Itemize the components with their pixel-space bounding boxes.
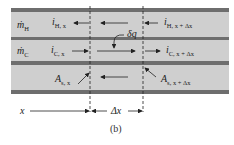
label-i-H-x: iH, x	[52, 17, 66, 31]
label-m-hot: ṁH	[17, 20, 29, 34]
label-A-s-xdx: As, x + Δx	[161, 74, 191, 88]
leader-A-s-xdx	[145, 68, 156, 77]
label-i-C-xdx: iC, x + Δx	[166, 45, 194, 59]
label-i-H-xdx: iH, x + Δx	[164, 17, 192, 31]
label-dx: Δx	[111, 106, 121, 116]
label-A-s-x: As, x	[55, 74, 70, 88]
leader-A-s-x	[78, 73, 89, 84]
label-x: x	[20, 106, 24, 116]
figure-caption: (b)	[110, 123, 122, 134]
label-delta-q: δq	[127, 29, 137, 39]
arrow-delta-q	[114, 35, 124, 48]
label-i-C-x: iC, x	[51, 45, 65, 59]
label-m-cold: ṁC	[17, 46, 29, 60]
